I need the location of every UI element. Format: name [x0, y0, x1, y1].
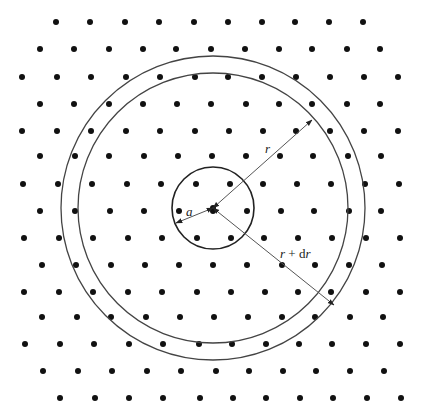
lattice-point	[381, 368, 387, 374]
lattice-point	[228, 289, 234, 295]
lattice-point	[328, 289, 334, 295]
lattice-point	[296, 341, 302, 347]
lattice-point	[178, 368, 184, 374]
lattice-point	[20, 181, 26, 187]
lattice-point	[160, 341, 166, 347]
label-r-plus-dr: r + dr	[280, 246, 311, 261]
lattice-point	[397, 235, 403, 241]
lattice-point	[213, 368, 219, 374]
lattice-point	[19, 74, 25, 80]
lattice-point	[124, 181, 130, 187]
lattice-point	[209, 153, 215, 159]
lattice-point	[176, 262, 182, 268]
lattice-point	[90, 289, 96, 295]
lattice-point	[310, 153, 316, 159]
lattice-point	[261, 235, 267, 241]
lattice-point	[88, 128, 94, 134]
lattice-point	[37, 46, 43, 52]
lattice-point	[395, 128, 401, 134]
lattice-point	[363, 341, 369, 347]
lattice-point	[21, 235, 27, 241]
lattice-point	[176, 208, 182, 214]
lattice-point	[344, 101, 350, 107]
lattice-point	[173, 46, 179, 52]
lattice-point	[54, 74, 60, 80]
lattice-point	[71, 101, 77, 107]
label-a: a	[186, 204, 193, 219]
lattice-point	[279, 314, 285, 320]
lattice-point	[37, 101, 43, 107]
lattice-point	[55, 181, 61, 187]
lattice-point	[347, 368, 353, 374]
lattice-point	[243, 153, 249, 159]
lattice-point	[37, 208, 43, 214]
lattice-point	[312, 262, 318, 268]
lattice-point	[260, 128, 266, 134]
lattice-point	[363, 289, 369, 295]
lattice-point	[280, 368, 286, 374]
lattice-point	[292, 19, 298, 25]
lattice-point	[37, 153, 43, 159]
lattice-point	[246, 368, 252, 374]
lattice-point	[159, 289, 165, 295]
lattice-point	[141, 208, 147, 214]
lattice-point	[144, 368, 150, 374]
lattice-point	[126, 395, 132, 401]
lattice-point	[330, 395, 336, 401]
lattice-point	[378, 208, 384, 214]
lattice-point	[210, 262, 216, 268]
lattice-point	[174, 101, 180, 107]
lattice-point	[377, 101, 383, 107]
lattice-point	[106, 46, 112, 52]
lattice-point	[126, 341, 132, 347]
lattice-point	[109, 368, 115, 374]
lattice-point	[396, 181, 402, 187]
lattice-point	[91, 341, 97, 347]
lattice-point	[379, 262, 385, 268]
lattice-point	[122, 19, 128, 25]
lattice-point	[245, 314, 251, 320]
lattice-point	[329, 341, 335, 347]
lattice-point	[263, 341, 269, 347]
lattice-point	[194, 235, 200, 241]
lattice-point	[226, 128, 232, 134]
lattice-point	[159, 235, 165, 241]
lattice-point	[192, 128, 198, 134]
lattice-point	[39, 314, 45, 320]
lattice-point	[72, 153, 78, 159]
lattice-point	[230, 395, 236, 401]
lattice-point	[143, 314, 149, 320]
lattice-point	[278, 208, 284, 214]
lattice-point	[54, 128, 60, 134]
lattice-point	[90, 235, 96, 241]
lattice-point	[53, 19, 59, 25]
lattice-point	[87, 19, 93, 25]
lattice-point	[347, 314, 353, 320]
lattice-point	[227, 181, 233, 187]
lattice-point	[397, 289, 403, 295]
label-r: r	[265, 141, 271, 156]
lattice-point	[244, 208, 250, 214]
lattice-point	[263, 395, 269, 401]
lattice-point	[141, 153, 147, 159]
lattice-point	[197, 395, 203, 401]
lattice-point	[243, 101, 249, 107]
lattice-point	[346, 262, 352, 268]
lattice-point	[242, 46, 248, 52]
lattice-point	[228, 235, 234, 241]
lattice-point	[327, 128, 333, 134]
lattice-point	[140, 46, 146, 52]
lattice-point	[259, 74, 265, 80]
lattice-point	[107, 208, 113, 214]
lattice-point	[108, 262, 114, 268]
lattice-point	[262, 289, 268, 295]
lattice-point	[260, 181, 266, 187]
lattice-point	[211, 314, 217, 320]
lattice-point	[21, 289, 27, 295]
lattice-point	[56, 289, 62, 295]
lattice-point	[193, 181, 199, 187]
lattice-point	[71, 46, 77, 52]
lattice-point	[208, 46, 214, 52]
lattice-point	[106, 101, 112, 107]
lattice-point	[157, 128, 163, 134]
